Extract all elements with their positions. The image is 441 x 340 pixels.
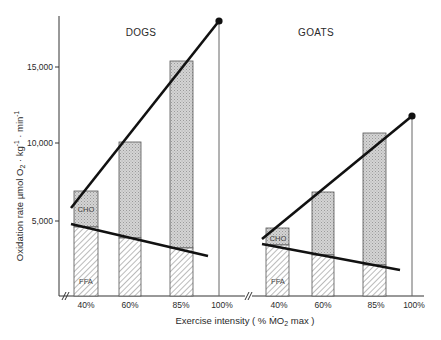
bar-segment-cho: [312, 192, 334, 255]
y-tick-10000: 10,000: [27, 138, 53, 148]
bar-dogs-85: [170, 61, 193, 296]
bar-segment-ffa: [170, 248, 193, 296]
cho-label: CHO: [78, 205, 95, 214]
x-tick-goats-85: 85%: [367, 300, 384, 310]
bar-dogs-40: CHO FFA: [74, 191, 98, 296]
x-tick-dogs-40: 40%: [77, 300, 94, 310]
oxidation-rate-chart: 15,000 10,000 5,000 Oxidation rate µmol …: [0, 0, 441, 340]
x-tick-dogs-60: 60%: [121, 300, 138, 310]
ffa-label: FFA: [79, 277, 93, 286]
bar-segment-cho: [119, 142, 141, 238]
bar-goats-40: CHO FFA: [266, 228, 289, 296]
y-tick-5000: 5,000: [32, 216, 54, 226]
bar-segment-ffa: [266, 245, 289, 296]
y-tick-15000: 15,000: [27, 62, 53, 72]
panel-title-goats: GOATS: [298, 27, 334, 38]
bar-segment-ffa: [363, 265, 386, 296]
panel-goats: GOATS CHO FFA 40% 60% 85% 100%: [262, 27, 425, 310]
bar-segment-ffa: [119, 238, 141, 296]
x-tick-goats-100: 100%: [403, 300, 425, 310]
cho-label: CHO: [270, 234, 287, 243]
x-axis-title: Exercise intensity ( % ṀO2 max ): [175, 315, 314, 327]
x-tick-dogs-100: 100%: [211, 300, 233, 310]
x-tick-goats-40: 40%: [270, 300, 287, 310]
bar-segment-cho: [170, 61, 193, 248]
axis-break-middle: [245, 292, 252, 300]
x-tick-dogs-85: 85%: [172, 300, 189, 310]
y-axis-title: Oxidation rate µmol O2 · kg-1 · min-1: [13, 110, 26, 261]
max-point-dogs: [215, 17, 222, 24]
bar-goats-60: [312, 192, 334, 296]
bar-goats-85: [363, 133, 386, 296]
total-trend-line-dogs: [71, 21, 219, 208]
max-point-goats: [408, 112, 415, 119]
panel-dogs: DOGS CHO FFA 40% 60% 85% 100%: [71, 17, 233, 310]
bar-dogs-60: [119, 142, 141, 296]
panel-title-dogs: DOGS: [126, 27, 157, 38]
ffa-label: FFA: [271, 277, 285, 286]
total-trend-line-goats: [262, 116, 412, 239]
x-tick-goats-60: 60%: [314, 300, 331, 310]
bar-segment-ffa: [312, 255, 334, 296]
y-axis: 15,000 10,000 5,000 Oxidation rate µmol …: [13, 16, 59, 296]
